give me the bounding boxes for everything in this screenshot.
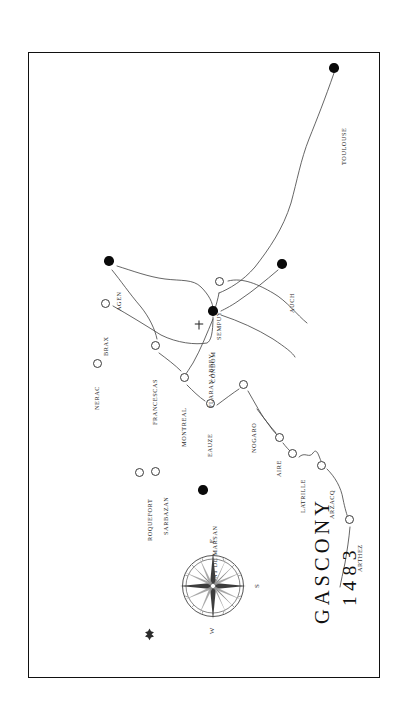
settlement-marker-latrille[interactable] <box>288 449 297 458</box>
settlement-marker-toulouse[interactable] <box>329 63 339 73</box>
compass-label-top: E <box>208 539 216 543</box>
settlement-marker-aire[interactable] <box>275 433 284 442</box>
settlement-label-sarbazan: SARBAZAN <box>162 497 169 535</box>
settlement-label-eauze: EAUZE <box>206 434 213 457</box>
river-montreal-to-eauze <box>187 385 205 401</box>
river-latrille-to-arzacq <box>299 451 321 461</box>
settlement-marker-brax[interactable] <box>101 299 110 308</box>
settlement-marker-montreal[interactable] <box>180 373 189 382</box>
settlement-label-montreal: MONTREAL <box>180 408 187 447</box>
settlement-label-sempuy: SEMPUY <box>215 311 222 340</box>
settlement-label-brax: BRAX <box>102 336 109 356</box>
north-fleur-de-lis-icon <box>143 627 156 640</box>
settlement-label-toulouse: TOULOUSE <box>340 127 347 165</box>
river-aire-north-tail <box>257 409 276 433</box>
abbey-cross-icon-flaran-abbey <box>194 320 204 330</box>
map-frame: TOULOUSEAGENBRAXNERACFRANCESCASCONDOMSEM… <box>28 52 380 678</box>
river-auch-to-condom-branch <box>221 270 278 311</box>
settlement-label-nogaro: NOGARO <box>250 423 257 453</box>
river-francescas-to-montreal <box>159 353 181 371</box>
settlement-label-arzacq: ARZACQ <box>328 490 335 519</box>
settlement-marker-nerac[interactable] <box>93 359 102 368</box>
settlement-label-latrille: LATRILLE <box>299 479 306 513</box>
river-garonne-toulouse-to-condom <box>219 73 334 293</box>
settlement-marker-arzacq[interactable] <box>317 461 326 470</box>
settlement-label-arthez: ARTHEZ <box>356 544 363 572</box>
settlement-marker-mont-de-marsan[interactable] <box>198 485 208 495</box>
settlement-marker-francescas[interactable] <box>151 341 160 350</box>
settlement-marker-arthez[interactable] <box>345 515 354 524</box>
settlement-label-francescas: FRANCESCAS <box>151 379 158 425</box>
settlement-marker-nogaro[interactable] <box>239 380 248 389</box>
settlement-marker-agen[interactable] <box>104 256 114 266</box>
compass-label-right: S <box>253 584 261 588</box>
settlement-label-agen: AGEN <box>115 291 122 311</box>
river-arthez-south-tail <box>340 527 350 587</box>
compass-label-bottom: W <box>208 628 216 635</box>
settlement-label-auch: AUCH <box>288 293 295 313</box>
compass-rose: E S W <box>175 548 251 624</box>
river-condom-east-lobe <box>221 315 295 357</box>
river-sempuy-east-loop <box>228 280 307 323</box>
settlement-label-aire: AIRE <box>275 460 282 477</box>
settlement-marker-auch[interactable] <box>277 259 287 269</box>
river-eauze-to-nogaro <box>217 389 239 405</box>
settlement-marker-sempuy[interactable] <box>215 277 224 286</box>
settlement-marker-roquefort[interactable] <box>135 468 144 477</box>
compass-rose-graphic <box>175 548 251 624</box>
settlement-label-flaran-abbey: FLARAN ABBEY <box>207 354 214 408</box>
river-agen-to-condom-north <box>117 266 213 309</box>
settlement-label-roquefort: ROQUEFORT <box>146 499 153 541</box>
settlement-marker-sarbazan[interactable] <box>151 467 160 476</box>
settlement-label-nerac: NERAC <box>93 386 100 410</box>
